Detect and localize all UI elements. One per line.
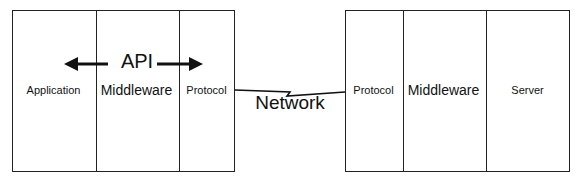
- connectors: [0, 0, 576, 182]
- network-link-icon: [235, 90, 345, 96]
- api-right-arrow-icon: [157, 57, 203, 71]
- api-left-arrow-icon: [64, 57, 108, 71]
